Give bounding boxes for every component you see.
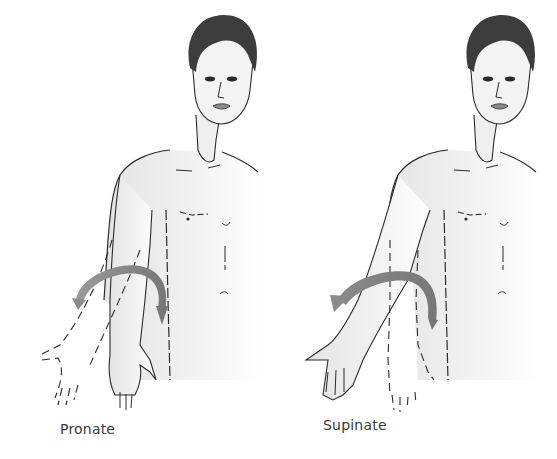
- head: [466, 15, 534, 124]
- supinate-illustration: [278, 0, 556, 420]
- pronate-illustration: [0, 0, 278, 420]
- supinate-panel: Supinate: [278, 0, 556, 459]
- head: [188, 15, 256, 124]
- supinate-caption: Supinate: [323, 417, 387, 433]
- pronate-caption: Pronate: [60, 421, 115, 437]
- pronate-panel: Pronate: [0, 0, 278, 459]
